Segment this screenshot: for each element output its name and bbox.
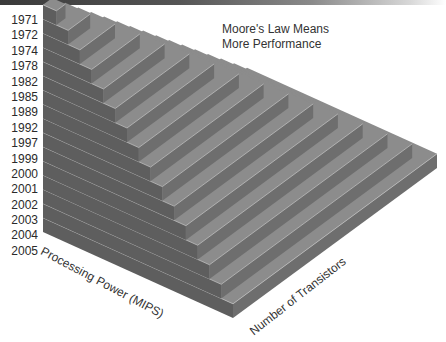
year-label: 1999	[0, 152, 38, 167]
year-label: 1978	[0, 59, 38, 74]
year-label: 1982	[0, 75, 38, 90]
year-label: 2002	[0, 198, 38, 213]
title-line-1: Moore's Law Means	[222, 22, 329, 37]
year-label: 1985	[0, 90, 38, 105]
year-label: 2005	[0, 244, 38, 259]
year-labels: 1971197219741978198219851989199219971999…	[0, 13, 38, 259]
year-label: 2004	[0, 228, 38, 243]
year-label: 2003	[0, 213, 38, 228]
year-label: 1989	[0, 105, 38, 120]
year-label: 1997	[0, 136, 38, 151]
year-label: 1971	[0, 13, 38, 28]
diagram-title: Moore's Law Means More Performance	[222, 22, 329, 52]
year-label: 1992	[0, 121, 38, 136]
year-label: 2001	[0, 182, 38, 197]
year-label: 1972	[0, 28, 38, 43]
year-label: 1974	[0, 44, 38, 59]
title-line-2: More Performance	[222, 37, 329, 52]
year-label: 2000	[0, 167, 38, 182]
